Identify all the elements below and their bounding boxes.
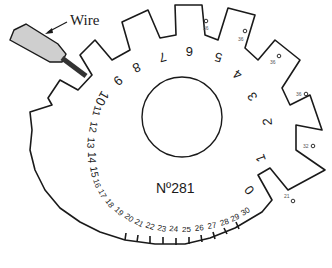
tab-mark-6: 21 <box>284 193 290 199</box>
wire-gauge-diagram: 0 1 2 3 4 5 6 7 8 9 10 11 12 13 14 15 16… <box>0 0 332 268</box>
gauge-number-26: 26 <box>194 223 204 233</box>
tab-mark-2: 36 <box>238 36 244 42</box>
gauge-number-25: 25 <box>182 225 191 234</box>
wire-callout: Wire <box>45 12 100 34</box>
gauge-number-6: 6 <box>186 44 193 59</box>
tab-mark-5: 32 <box>303 143 309 149</box>
gauge-number-13: 13 <box>85 137 97 149</box>
tab-mark-4: 36 <box>296 91 302 97</box>
tab-mark-1: 36 <box>203 25 209 31</box>
gauge-number-2: 2 <box>259 118 275 127</box>
gauge-number-24: 24 <box>169 224 179 234</box>
gauge-number-14: 14 <box>86 152 97 164</box>
center-hole <box>142 77 222 157</box>
wire-label: Wire <box>70 12 100 28</box>
tab-mark-3: 36 <box>270 59 276 65</box>
model-number-label: Nº281 <box>156 180 195 196</box>
gauge-plate <box>30 5 325 244</box>
arrow-head-icon <box>45 28 53 34</box>
wire <box>62 58 86 76</box>
